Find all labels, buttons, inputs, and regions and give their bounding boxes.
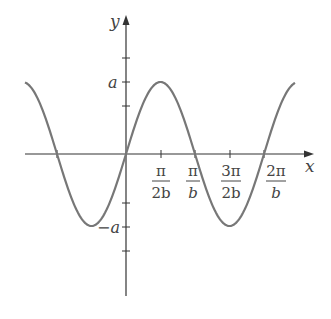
y-tick-label-neg-a: −a bbox=[97, 218, 120, 237]
svg-text:π: π bbox=[156, 162, 166, 180]
svg-text:2b: 2b bbox=[151, 184, 170, 202]
svg-text:2π: 2π bbox=[266, 162, 286, 180]
x-tick-label-pi-over-2b: π 2b bbox=[151, 162, 170, 202]
y-axis-label: y bbox=[109, 11, 120, 31]
svg-text:π: π bbox=[188, 162, 198, 180]
svg-text:b: b bbox=[271, 184, 281, 202]
y-tick-label-a: a bbox=[108, 73, 118, 92]
x-tick-label-3pi-over-2b: 3π 2b bbox=[221, 162, 241, 202]
svg-text:3π: 3π bbox=[221, 162, 241, 180]
svg-text:2b: 2b bbox=[221, 184, 240, 202]
x-tick-label-pi-over-b: π b bbox=[186, 162, 200, 202]
svg-text:b: b bbox=[188, 184, 198, 202]
y-axis-arrow-icon bbox=[123, 15, 130, 25]
x-tick-label-2pi-over-b: 2π b bbox=[266, 162, 286, 202]
x-axis-label: x bbox=[305, 156, 315, 176]
sine-graph: y x a −a π 2b π b 3π 2b 2π b bbox=[0, 0, 331, 319]
